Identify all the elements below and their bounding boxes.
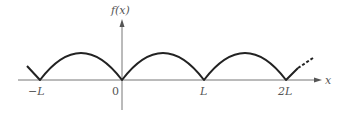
tick-label-L: L — [199, 85, 207, 98]
tick-label-origin: 0 — [112, 85, 119, 98]
y-axis-arrow-icon — [120, 19, 125, 27]
function-curve — [27, 53, 298, 80]
y-axis-label: f(x) — [110, 4, 130, 17]
function-curve-continuation-dashed — [298, 58, 313, 68]
x-axis-label: x — [325, 74, 332, 87]
tick-label-neg-L: −L — [28, 85, 45, 98]
x-axis-arrow-icon — [314, 78, 322, 83]
tick-label-2L: 2L — [277, 85, 292, 98]
periodic-function-diagram: f(x) x −L 0 L 2L — [0, 0, 346, 113]
